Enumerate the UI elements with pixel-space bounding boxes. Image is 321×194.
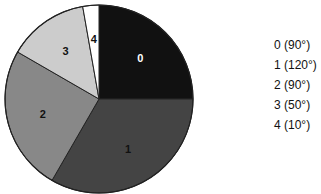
pie-chart: 01234 bbox=[0, 0, 200, 194]
legend-item-2: 2 (90°) bbox=[274, 76, 317, 96]
slice-label-3: 3 bbox=[63, 45, 69, 57]
slice-label-1: 1 bbox=[125, 143, 131, 155]
slice-label-0: 0 bbox=[137, 52, 143, 64]
legend: 0 (90°) 1 (120°) 2 (90°) 3 (50°) 4 (10°) bbox=[274, 36, 317, 136]
pie-slice-0 bbox=[99, 5, 193, 99]
legend-item-3: 3 (50°) bbox=[274, 96, 317, 116]
legend-item-0: 0 (90°) bbox=[274, 36, 317, 56]
slice-label-2: 2 bbox=[40, 108, 46, 120]
legend-item-4: 4 (10°) bbox=[274, 116, 317, 136]
slice-label-4: 4 bbox=[91, 33, 98, 45]
legend-item-1: 1 (120°) bbox=[274, 56, 317, 76]
